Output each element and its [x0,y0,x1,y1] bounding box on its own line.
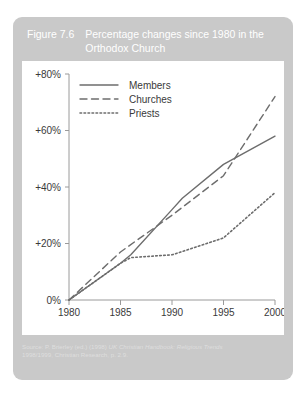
source-prefix: Source: P. Brierley (ed.) (1998) [22,343,109,350]
figure-header: Figure 7.6 Percentage changes since 1980… [13,17,293,55]
x-axis-tick-labels: 19801985199019952000 [58,307,284,318]
x-tick-label: 2000 [264,307,284,318]
series-line-churches [69,97,275,300]
y-tick-label: 0% [47,295,62,306]
chart-series-group [69,97,275,300]
legend-label-churches: Churches [129,94,172,105]
y-tick-label: +60% [35,125,61,136]
x-tick-label: 1985 [109,307,132,318]
figure-number: Figure 7.6 [27,27,74,41]
legend-label-priests: Priests [129,108,160,119]
y-tick-label: +40% [35,182,61,193]
source-line-2: 1998/1999, Christian Research, p. 2.9. [22,351,128,358]
y-tick-label: +20% [35,238,61,249]
figure-source-note: Source: P. Brierley (ed.) (1998) UK Chri… [22,343,286,360]
chart-plot-panel: 0%+20%+40%+60%+80% 19801985199019952000 … [22,61,284,335]
y-tick-label: +80% [35,69,61,80]
series-line-members [69,136,275,300]
x-axis-tick-marks [69,300,275,305]
x-tick-label: 1990 [161,307,184,318]
figure-card: Figure 7.6 Percentage changes since 1980… [13,17,293,380]
x-tick-label: 1980 [58,307,81,318]
line-chart: 0%+20%+40%+60%+80% 19801985199019952000 … [22,61,284,335]
source-publication-title: UK Christian Handbook: Religious Trends [109,343,223,350]
x-tick-label: 1995 [212,307,235,318]
y-axis-tick-labels: 0%+20%+40%+60%+80% [35,69,61,306]
figure-title: Percentage changes since 1980 in the Ort… [85,27,279,55]
chart-legend: MembersChurchesPriests [80,80,172,119]
y-axis-tick-marks [65,74,69,300]
legend-label-members: Members [129,80,171,91]
